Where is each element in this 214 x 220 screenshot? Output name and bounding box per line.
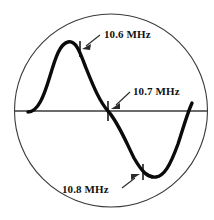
annotation-label-10-8: 10.8 MHz <box>62 183 109 195</box>
oscilloscope-display: 10.6 MHz 10.7 MHz 10.8 MHz <box>0 0 214 220</box>
s-curve-figure: 10.6 MHz 10.7 MHz 10.8 MHz <box>0 0 214 220</box>
annotation-label-10-6: 10.6 MHz <box>104 28 151 40</box>
annotation-label-10-7: 10.7 MHz <box>133 85 180 97</box>
